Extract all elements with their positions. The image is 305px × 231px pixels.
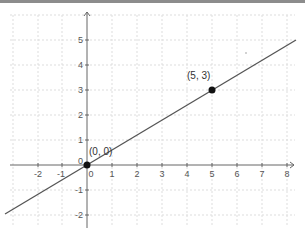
y-tick-label: 5 xyxy=(78,35,83,45)
y-tick-label: 1 xyxy=(78,135,83,145)
chart-canvas: -2 -1 0 1 2 3 4 5 6 7 8 5 4 3 2 1 0 -1 -… xyxy=(0,0,305,231)
y-tick-label: -1 xyxy=(75,185,83,195)
origin-point-label: (0, 0) xyxy=(89,146,112,157)
stray-dot xyxy=(245,52,247,54)
function-line[interactable] xyxy=(5,40,296,214)
x-tick-label: 5 xyxy=(209,169,214,179)
y-tick-label: -2 xyxy=(75,210,83,220)
x-tick-label: 8 xyxy=(284,169,289,179)
y-tick-labels: 5 4 3 2 1 0 -1 -2 xyxy=(75,35,83,220)
x-tick-label: 7 xyxy=(259,169,264,179)
point-b[interactable] xyxy=(209,87,216,94)
x-tick-label: 1 xyxy=(109,169,114,179)
grid-lines xyxy=(10,15,295,225)
x-tick-label: -2 xyxy=(34,169,42,179)
x-tick-label: 2 xyxy=(134,169,139,179)
axes xyxy=(10,12,294,228)
point-origin[interactable] xyxy=(84,162,91,169)
x-tick-label: 0 xyxy=(88,169,93,179)
y-tick-label: 0 xyxy=(78,156,83,166)
x-tick-label: -1 xyxy=(57,169,65,179)
y-tick-label: 4 xyxy=(78,60,83,70)
y-tick-label: 2 xyxy=(78,110,83,120)
x-tick-label: 4 xyxy=(184,169,189,179)
point-b-label: (5, 3) xyxy=(187,70,210,81)
y-tick-label: 3 xyxy=(78,85,83,95)
x-tick-label: 3 xyxy=(159,169,164,179)
x-tick-label: 6 xyxy=(234,169,239,179)
